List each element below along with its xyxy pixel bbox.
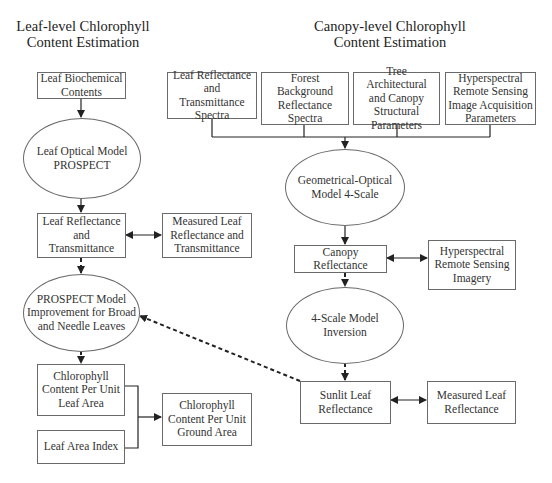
leaf-reflectance-transmittance-box: Leaf Reflectance and Transmittance — [37, 213, 126, 258]
leaf-level-title: Leaf-level Chlorophyll Content Estimatio… — [8, 18, 158, 50]
chlorophyll-ground-area-box: Chlorophyll Content Per Unit Ground Area — [162, 393, 252, 446]
chlorophyll-leaf-area-box: Chlorophyll Content Per Unit Leaf Area — [37, 364, 125, 416]
model-inversion-ellipse: 4-Scale Model Inversion — [286, 287, 404, 364]
leaf-area-index-box: Leaf Area Index — [37, 430, 125, 464]
leaf-biochemical-box: Leaf Biochemical Contents — [37, 72, 126, 99]
hyperspectral-imagery-box: Hyperspectral Remote Sensing Imagery — [428, 240, 516, 290]
input-image-acquisition-box: Hyperspectral Remote Sensing Image Acqui… — [445, 72, 536, 125]
sunlit-leaf-reflectance-box: Sunlit Leaf Reflectance — [300, 381, 391, 424]
prospect-improvement-ellipse: PROSPECT Model Improvement for Broad and… — [23, 274, 140, 352]
input-forest-background-box: Forest Background Reflectance Spectra — [261, 72, 349, 125]
canopy-level-title: Canopy-level Chlorophyll Content Estimat… — [290, 18, 490, 50]
geometrical-optical-model-ellipse: Geometrical-Optical Model 4-Scale — [285, 149, 405, 226]
measured-leaf-rt-box: Measured Leaf Reflectance and Transmitta… — [162, 213, 252, 258]
measured-leaf-reflectance-box: Measured Leaf Reflectance — [427, 381, 516, 424]
canopy-reflectance-box: Canopy Reflectance — [294, 245, 387, 273]
input-tree-architecture-box: Tree Architectural and Canopy Structural… — [353, 72, 440, 125]
input-leaf-rt-spectra-box: Leaf Reflectance and Transmittance Spect… — [167, 72, 257, 119]
prospect-model-ellipse: Leaf Optical Model PROSPECT — [23, 118, 141, 199]
